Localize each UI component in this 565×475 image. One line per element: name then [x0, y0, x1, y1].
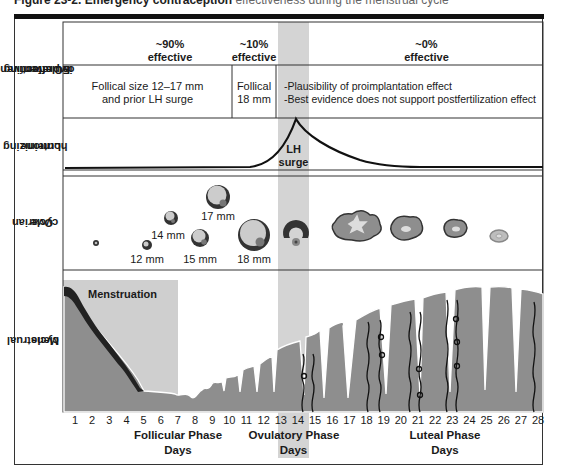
day-label: 9 — [203, 414, 221, 426]
follicle-15mm: 15 mm — [178, 253, 222, 266]
day-label: 6 — [152, 414, 170, 426]
day-label: 18 — [358, 414, 376, 426]
day-label: 21 — [409, 414, 427, 426]
day-label: 2 — [83, 414, 101, 426]
day-label: 10 — [220, 414, 238, 426]
menstruation-label: Menstruation — [88, 288, 157, 301]
day-label: 17 — [340, 414, 358, 426]
day-label: 19 — [375, 414, 393, 426]
follicle-18mm: 18 mm — [232, 253, 276, 266]
day-label: 3 — [100, 414, 118, 426]
day-label: 28 — [529, 414, 547, 426]
day-label: 15 — [306, 414, 324, 426]
day-label: 4 — [117, 414, 135, 426]
day-label: 7 — [169, 414, 187, 426]
day-label: 26 — [495, 414, 513, 426]
phase-ovulatory: Ovulatory PhaseDays — [238, 428, 350, 458]
detail-0: -Plausibility of proimplantation effect-… — [284, 80, 544, 106]
row-label-ovarian: Ovariancycle — [14, 176, 63, 270]
phase-luteal: Luteal PhaseDays — [380, 428, 510, 458]
eff-10: ~10%effective — [222, 38, 286, 64]
day-label: 1 — [66, 414, 84, 426]
day-label: 20 — [392, 414, 410, 426]
row-label-lh: Luteinizinghormone — [14, 118, 63, 176]
day-label: 22 — [426, 414, 444, 426]
day-label: 24 — [460, 414, 478, 426]
detail-90: Follical size 12–17 mmand prior LH surge — [63, 80, 232, 106]
day-label: 14 — [289, 414, 307, 426]
day-label: 5 — [135, 414, 153, 426]
day-label: 8 — [186, 414, 204, 426]
corpus-luteum — [332, 211, 508, 242]
day-label: 13 — [272, 414, 290, 426]
day-label: 12 — [255, 414, 273, 426]
day-label: 16 — [323, 414, 341, 426]
follicle-17mm: 17 mm — [196, 210, 240, 223]
day-label: 27 — [512, 414, 530, 426]
eff-0: ~0%effective — [310, 38, 543, 64]
day-label: 25 — [478, 414, 496, 426]
day-label: 11 — [238, 414, 256, 426]
day-label: 23 — [443, 414, 461, 426]
detail-10: Follical18 mm — [232, 80, 276, 106]
lh-surge-label: LHsurge — [278, 143, 309, 169]
row-label-menstrual: Menstrualcycle — [14, 270, 63, 412]
phase-follicular: Follicular PhaseDays — [108, 428, 248, 458]
follicle-12mm: 12 mm — [125, 253, 169, 266]
row-label-ec: EC effectivenessin preventingovulation — [14, 22, 63, 118]
follicle-14mm: 14 mm — [146, 229, 190, 242]
